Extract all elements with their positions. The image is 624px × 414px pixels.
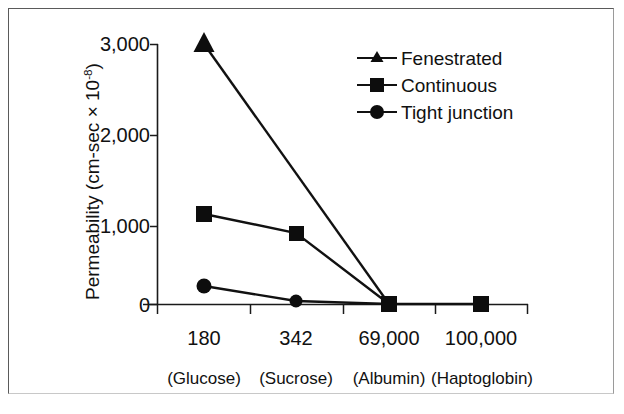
series-line-fenestrated — [204, 44, 389, 304]
legend-swatch-tight-junction — [357, 105, 397, 119]
figure-container: Permeability (cm-sec × 10-8) 3,000 2,000… — [0, 0, 624, 414]
marker-continuous-100000 — [473, 296, 489, 312]
legend-swatch-fenestrated — [357, 51, 397, 62]
plot-area — [0, 0, 624, 414]
marker-fenestrated-180 — [194, 32, 215, 52]
marker-continuous-180 — [196, 206, 212, 222]
marker-tight-junction-342 — [290, 295, 303, 308]
marker-continuous-69000 — [381, 296, 397, 312]
series-line-continuous — [204, 214, 481, 304]
marker-continuous-342 — [289, 226, 304, 241]
marker-tight-junction-180 — [197, 279, 212, 294]
legend-swatch-continuous — [357, 78, 397, 92]
